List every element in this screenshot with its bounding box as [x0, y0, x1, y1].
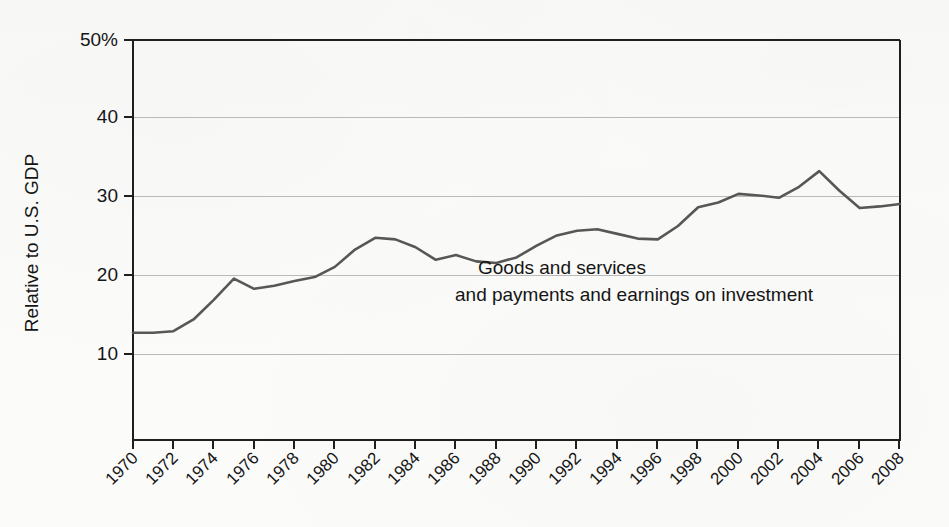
x-tick-label-2008: 2008: [868, 448, 908, 488]
x-tick-label-1984: 1984: [384, 448, 424, 488]
x-tick-label-1974: 1974: [182, 448, 222, 488]
series-annotation-line-2: and payments and earnings on investment: [455, 284, 814, 305]
y-tick-label-30: 30: [97, 185, 118, 206]
x-tick-label-1980: 1980: [303, 448, 343, 488]
y-tick-marks: [124, 40, 133, 354]
axis-frame: [133, 39, 900, 441]
x-tick-label-2002: 2002: [747, 448, 787, 488]
gridlines: [133, 117, 900, 354]
x-tick-label-2006: 2006: [828, 448, 868, 488]
x-tick-label-1986: 1986: [424, 448, 464, 488]
x-tick-label-1998: 1998: [666, 448, 706, 488]
series-line-goods-and-services: [133, 171, 900, 333]
y-tick-label-40: 40: [97, 106, 118, 127]
y-axis-title: Relative to U.S. GDP: [21, 154, 42, 332]
x-tick-label-1988: 1988: [465, 448, 505, 488]
x-tick-label-1990: 1990: [505, 448, 545, 488]
line-chart: 50% 40 30 20 10 Relative to U.S. GDP: [0, 0, 949, 527]
x-tick-label-1982: 1982: [344, 448, 384, 488]
x-tick-label-1994: 1994: [586, 448, 626, 488]
y-tick-label-50: 50%: [80, 29, 118, 50]
y-tick-labels: 50% 40 30 20 10: [80, 29, 118, 364]
x-tick-label-2000: 2000: [707, 448, 747, 488]
x-tick-label-1978: 1978: [263, 448, 303, 488]
chart-screenshot: 50% 40 30 20 10 Relative to U.S. GDP: [0, 0, 949, 527]
series-annotation-line-1: Goods and services: [478, 257, 646, 278]
x-tick-label-1992: 1992: [545, 448, 585, 488]
x-tick-label-1976: 1976: [223, 448, 263, 488]
x-tick-label-2004: 2004: [787, 448, 827, 488]
x-tick-label-1970: 1970: [102, 448, 142, 488]
series-annotation: Goods and services and payments and earn…: [455, 257, 814, 305]
y-tick-label-20: 20: [97, 264, 118, 285]
x-tick-label-1972: 1972: [142, 448, 182, 488]
x-tick-marks: [133, 440, 899, 449]
x-tick-label-1996: 1996: [626, 448, 666, 488]
y-tick-label-10: 10: [97, 343, 118, 364]
x-tick-labels: 1970 1972 1974 1976 1978 1980 1982 1984 …: [102, 448, 908, 488]
